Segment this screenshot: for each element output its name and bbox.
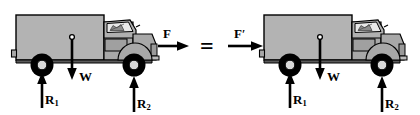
force-label-R1-left: R1: [45, 92, 59, 108]
force-label-W-left: W: [79, 69, 92, 85]
grille-left: [151, 44, 157, 56]
truck-drawing-left: [0, 0, 196, 115]
force-label-R1-right: R1: [293, 92, 307, 108]
diagram-panel-right: F′ W R1 R2: [228, 0, 420, 115]
force-label-F-prime-right: F′: [234, 26, 245, 42]
rear-step-right: [260, 50, 265, 57]
reaction2-arrow-head-left: [129, 76, 139, 88]
side-mirror-left: [136, 25, 140, 27]
reaction2-arrow-head-right: [377, 76, 387, 88]
force-label-R2-left: R2: [137, 96, 151, 112]
applied-force-arrow-head-left: [177, 41, 189, 51]
grille-right: [399, 44, 405, 56]
cargo-box-left: [16, 15, 104, 60]
front-hub-right: [377, 60, 387, 70]
weight-arrow-head-left: [67, 68, 77, 80]
force-label-R2-right: R2: [385, 96, 399, 112]
figure-canvas: F W R1 R2 =: [0, 0, 420, 115]
front-hub-left: [129, 60, 139, 70]
rear-hub-left: [37, 60, 47, 70]
side-mirror-right: [384, 25, 388, 27]
diagram-panel-left: F W R1 R2: [0, 0, 196, 115]
force-label-F-left: F: [163, 26, 171, 42]
rear-step-left: [12, 50, 17, 57]
center-of-gravity-marker-left: [70, 35, 75, 40]
cargo-box-right: [264, 15, 352, 60]
weight-arrow-head-right: [315, 68, 325, 80]
center-of-gravity-marker-right: [318, 35, 323, 40]
force-label-W-right: W: [327, 69, 340, 85]
equals-sign: =: [200, 33, 214, 60]
rear-hub-right: [285, 60, 295, 70]
equals-sign-container: =: [196, 0, 228, 115]
applied-force-arrow-head-right: [251, 41, 263, 51]
